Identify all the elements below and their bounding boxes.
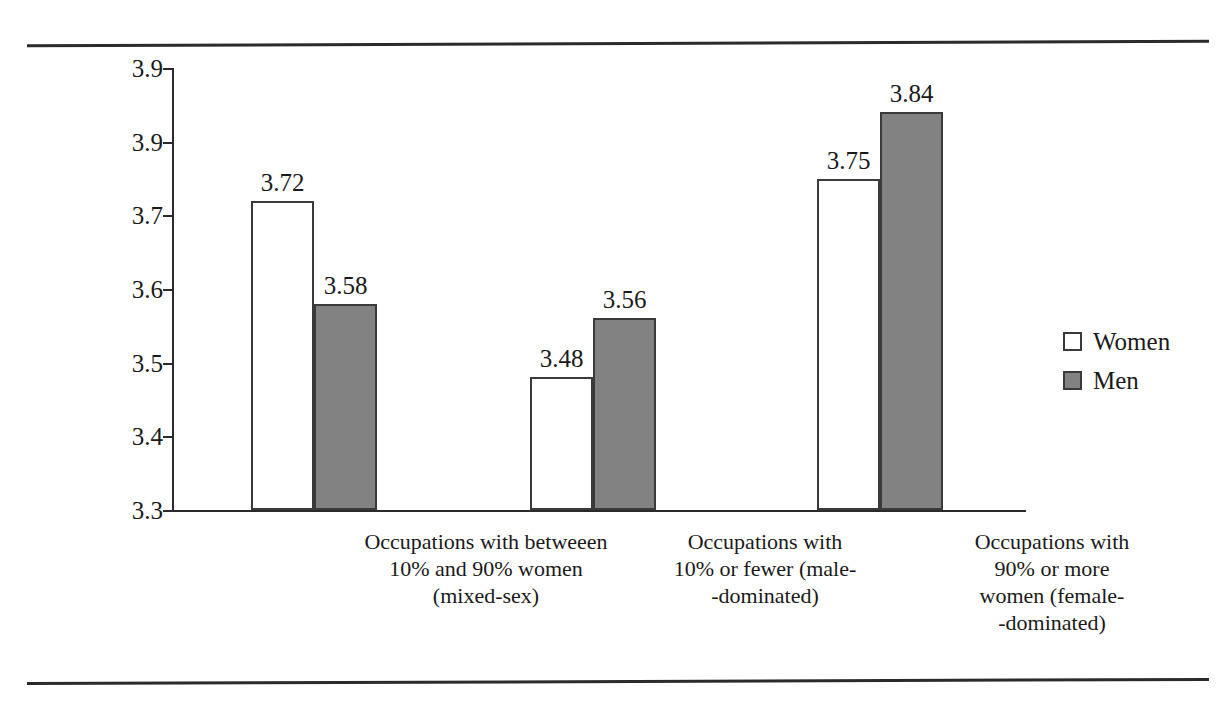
- bar-women-group-1: 3.72: [251, 201, 314, 510]
- bar-men-group-2: 3.56: [593, 318, 656, 510]
- bar-value-label: 3.75: [827, 148, 871, 173]
- bar-value-label: 3.72: [261, 170, 305, 195]
- legend-item-men[interactable]: Men: [1063, 361, 1170, 400]
- figure-root: Perceived Workspace Suport 3.93.93.73.63…: [0, 0, 1225, 713]
- y-tick-mark: [163, 142, 172, 144]
- bar-women-group-3: 3.75: [817, 179, 880, 511]
- y-tick-label: 3.9: [132, 129, 163, 154]
- bar-women-group-2: 3.48: [530, 377, 593, 510]
- legend-swatch-open-square: [1063, 332, 1082, 351]
- legend-swatch-filled-gray-square: [1063, 371, 1082, 390]
- y-tick-mark: [163, 363, 172, 365]
- category-label-line: Occupations with: [862, 528, 1225, 555]
- y-tick-label: 3.3: [132, 498, 163, 523]
- legend-item-women[interactable]: Women: [1063, 322, 1170, 361]
- y-tick-mark: [163, 68, 172, 70]
- y-tick-mark: [163, 215, 172, 217]
- legend-label: Men: [1093, 368, 1139, 393]
- bar-value-label: 3.48: [540, 346, 584, 371]
- page-rule-top: [27, 40, 1209, 48]
- y-tick-mark: [163, 436, 172, 438]
- bar-value-label: 3.84: [890, 81, 934, 106]
- y-tick-label: 3.4: [132, 424, 163, 449]
- page-rule-bottom: [27, 678, 1209, 685]
- category-label-line: 90% or more: [862, 555, 1225, 582]
- bar-value-label: 3.58: [324, 273, 368, 298]
- x-axis-line: [172, 510, 1026, 512]
- category-label-line: women (female-: [862, 582, 1225, 609]
- bar-men-group-3: 3.84: [880, 112, 943, 510]
- category-label-line: -dominated): [862, 609, 1225, 636]
- y-tick-mark: [163, 289, 172, 291]
- y-tick-label: 3.9: [132, 56, 163, 81]
- plot-area: 3.93.93.73.63.53.43.3 3.723.583.483.563.…: [172, 68, 1026, 512]
- legend-label: Women: [1093, 329, 1170, 354]
- y-tick-mark: [163, 510, 172, 512]
- y-tick-label: 3.7: [132, 203, 163, 228]
- y-tick-label: 3.6: [132, 277, 163, 302]
- category-label-3: Occupations with90% or morewomen (female…: [862, 528, 1225, 636]
- chart-legend: WomenMen: [1063, 322, 1170, 400]
- y-tick-label: 3.5: [132, 350, 163, 375]
- y-axis-line: [172, 68, 174, 512]
- bar-value-label: 3.56: [603, 287, 647, 312]
- bar-men-group-1: 3.58: [314, 304, 377, 510]
